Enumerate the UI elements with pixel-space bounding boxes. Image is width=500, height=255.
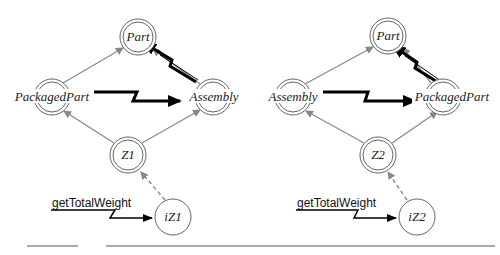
- edge-z2-to-assembly: [306, 111, 364, 143]
- node-label: Z1: [121, 147, 135, 162]
- bolt-outline: [160, 55, 198, 80]
- node-iz1[interactable]: iZ1: [155, 199, 191, 235]
- message-label: getTotalWeight: [297, 196, 377, 210]
- node-assembly[interactable]: Assembly: [266, 79, 322, 115]
- node-label: Z2: [371, 147, 385, 162]
- message-arrow: [51, 210, 152, 218]
- bolt-arrow-assembly-to-packagedpart: [323, 92, 415, 101]
- node-packagedpart[interactable]: PackagedPart: [12, 79, 94, 115]
- node-z2[interactable]: Z2: [360, 137, 396, 173]
- node-label: iZ2: [408, 209, 426, 224]
- bolt-arrow-packagedpart-to-assembly: [87, 92, 180, 101]
- node-label: Part: [375, 28, 400, 43]
- edge-z1-to-assembly: [142, 110, 200, 143]
- node-z1[interactable]: Z1: [110, 137, 146, 173]
- edge-assembly-to-part: [305, 47, 373, 84]
- edge-iz2-to-z2: [388, 172, 407, 200]
- bolt-outline: [405, 56, 441, 81]
- edge-iz1-to-z1: [141, 172, 165, 200]
- message-label: getTotalWeight: [52, 196, 132, 210]
- bolt-arrow-packagedpart-to-part: [393, 46, 439, 83]
- node-assembly[interactable]: Assembly: [186, 79, 242, 115]
- edge-packagedpart-to-part: [403, 48, 432, 84]
- node-part[interactable]: Part: [370, 18, 406, 54]
- node-label: Part: [125, 29, 150, 44]
- node-part[interactable]: Part: [120, 19, 156, 55]
- node-label: PackagedPart: [414, 89, 490, 104]
- diagram-canvas: Part PackagedPart Assembly Z1 iZ1 getTot…: [0, 0, 500, 255]
- node-label: Assembly: [267, 89, 317, 104]
- right-diagram: Part Assembly PackagedPart Z2 iZ2 getTot…: [266, 18, 494, 235]
- node-iz2[interactable]: iZ2: [399, 199, 435, 235]
- message-arrow: [296, 210, 396, 218]
- node-label: PackagedPart: [14, 89, 90, 104]
- left-diagram: Part PackagedPart Assembly Z1 iZ1 getTot…: [12, 19, 242, 235]
- edge-z1-to-packagedpart: [64, 111, 114, 143]
- edge-z2-to-packagedpart: [392, 112, 437, 143]
- node-label: Assembly: [188, 89, 238, 104]
- edge-packagedpart-to-part: [63, 48, 123, 83]
- node-packagedpart[interactable]: PackagedPart: [412, 79, 494, 115]
- node-label: iZ1: [164, 209, 181, 224]
